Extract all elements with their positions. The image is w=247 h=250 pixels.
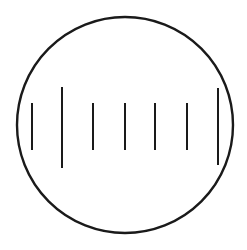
circle-lines-diagram [0, 0, 247, 250]
vertical-lines-group [32, 87, 218, 168]
diagram-stage [0, 0, 247, 250]
